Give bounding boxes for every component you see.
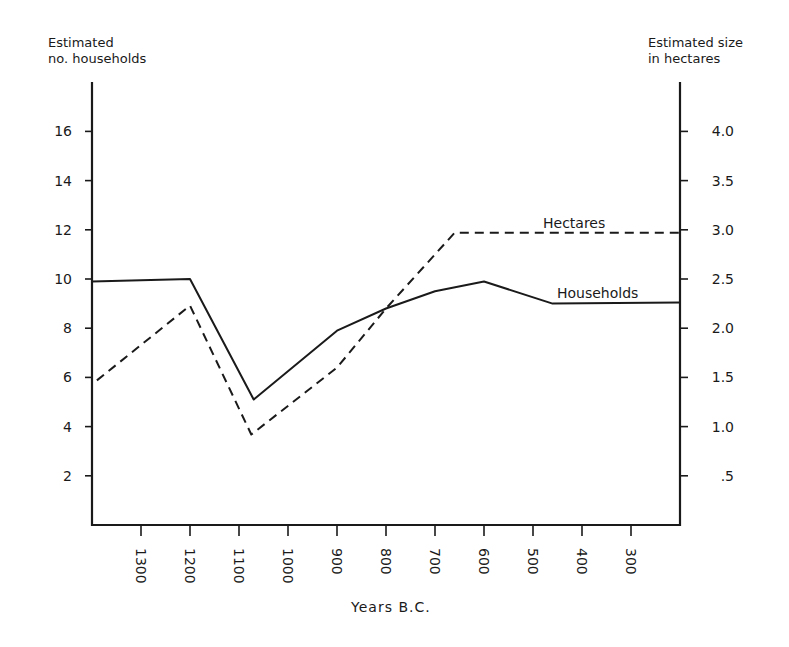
hectares-series-label: Hectares	[543, 215, 605, 231]
households-series-label: Households	[557, 285, 638, 301]
x-tick-label: 600	[476, 548, 492, 575]
left-tick-label: 2	[63, 468, 72, 484]
x-tick-label: 400	[574, 548, 590, 575]
right-axis-title: Estimated size in hectares	[648, 35, 743, 66]
left-axis-title-line-2: no. households	[48, 51, 146, 66]
x-tick-label: 1300	[133, 548, 149, 584]
right-axis-title-line-2: in hectares	[648, 51, 720, 66]
right-tick-label: 3.5	[712, 173, 734, 189]
hectares-series-line	[97, 233, 680, 435]
x-axis-title: Years B.C.	[350, 599, 431, 615]
left-tick-label: 4	[63, 419, 72, 435]
x-tick-label: 300	[623, 548, 639, 575]
right-tick-label: 2.5	[712, 271, 734, 287]
left-axis-title-line-1: Estimated	[48, 35, 114, 50]
right-tick-label: 4.0	[712, 123, 734, 139]
right-tick-label: 1.0	[712, 419, 734, 435]
left-axis-title: Estimated no. households	[48, 35, 146, 66]
left-tick-label: 8	[63, 320, 72, 336]
right-tick-label: 1.5	[712, 369, 734, 385]
x-tick-label: 800	[378, 548, 394, 575]
left-tick-label: 12	[54, 222, 72, 238]
right-tick-label: 3.0	[712, 222, 734, 238]
x-tick-label: 1000	[280, 548, 296, 584]
chart: Estimated no. households Estimated size …	[0, 0, 789, 647]
x-tick-label: 1200	[182, 548, 198, 584]
left-tick-label: 16	[54, 123, 72, 139]
x-tick-label: 1100	[231, 548, 247, 584]
right-tick-label: 2.0	[712, 320, 734, 336]
x-axis-ticks: 1300120011001000900800700600500400300	[133, 525, 639, 584]
left-tick-label: 10	[54, 271, 72, 287]
x-tick-label: 500	[525, 548, 541, 575]
x-tick-label: 700	[427, 548, 443, 575]
x-tick-label: 900	[329, 548, 345, 575]
left-tick-label: 6	[63, 369, 72, 385]
left-tick-label: 14	[54, 173, 72, 189]
right-tick-label: .5	[721, 468, 734, 484]
chart-canvas: Estimated no. households Estimated size …	[0, 0, 789, 647]
left-axis-ticks: 246810121416	[54, 123, 92, 483]
right-axis-ticks: .51.01.52.02.53.03.54.0	[680, 123, 734, 483]
right-axis-title-line-1: Estimated size	[648, 35, 743, 50]
